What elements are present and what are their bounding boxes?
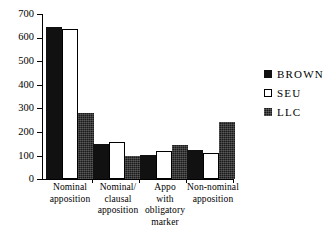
bar-brown-nominal-apposition [46, 27, 62, 179]
y-axis-label-100: 100 [0, 151, 34, 161]
bar-llc-nominal-apposition [78, 113, 94, 179]
bar-seu-appo-with-obligatory-marker [156, 151, 172, 179]
legend-item-seu: SEU [264, 83, 324, 102]
bar-seu-non-nominal-apposition [203, 153, 219, 179]
legend-label-brown: BROWN [277, 68, 324, 80]
x-axis-label-line: marker [131, 217, 199, 229]
y-axis-label-0: 0 [0, 174, 34, 184]
y-axis-label-600: 600 [0, 32, 34, 42]
legend-item-llc: LLC [264, 102, 324, 121]
y-axis-label-700: 700 [0, 9, 34, 19]
y-axis-label-500: 500 [0, 56, 34, 66]
bar-brown-nominal-clausal-apposition [93, 144, 109, 179]
x-axis-line [42, 179, 234, 180]
plot-area [42, 14, 232, 179]
x-axis-label-line: obligatory [131, 205, 199, 217]
bar-llc-nominal-clausal-apposition [125, 156, 141, 179]
legend-swatch-llc-icon [264, 108, 272, 116]
bar-brown-appo-with-obligatory-marker [140, 155, 156, 179]
x-axis-category-labels: Nominal apposition Nominal/ clausal appo… [42, 182, 234, 232]
legend-swatch-seu-icon [264, 89, 272, 97]
bar-chart: 700 600 500 400 300 200 100 0 [0, 0, 336, 232]
legend-swatch-brown-icon [264, 70, 272, 78]
x-axis-label-non-nominal-apposition: Non-nominal apposition [177, 182, 249, 205]
legend-item-brown: BROWN [264, 64, 324, 83]
y-axis-label-400: 400 [0, 80, 34, 90]
bar-seu-nominal-apposition [62, 29, 78, 179]
x-axis-label-line: Non-nominal [177, 182, 249, 194]
legend-label-seu: SEU [277, 87, 301, 99]
bar-llc-non-nominal-apposition [219, 122, 235, 179]
y-axis-label-300: 300 [0, 103, 34, 113]
legend-label-llc: LLC [277, 106, 301, 118]
bar-brown-non-nominal-apposition [187, 150, 203, 179]
chart-legend: BROWN SEU LLC [264, 64, 324, 121]
x-axis-label-line: apposition [177, 194, 249, 206]
bar-seu-nominal-clausal-apposition [109, 142, 125, 179]
bar-llc-appo-with-obligatory-marker [172, 145, 188, 179]
y-axis-label-200: 200 [0, 127, 34, 137]
